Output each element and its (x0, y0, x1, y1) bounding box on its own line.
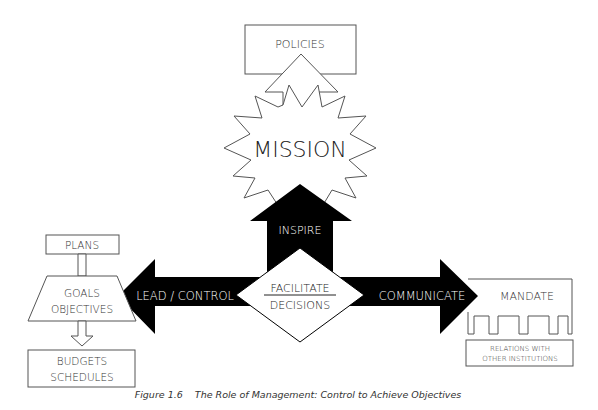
figure-caption: Figure 1.6 The Role of Management: Contr… (135, 389, 462, 400)
budgets-label: BUDGETS (57, 355, 108, 367)
decisions-label: DECISIONS (270, 299, 330, 312)
plans-to-goals-arrow (78, 254, 86, 276)
relations-label-1: RELATIONS WITH (490, 345, 550, 353)
mandate-label: MANDATE (500, 290, 554, 303)
communicate-label: COMMUNICATE (379, 289, 466, 303)
goals-label: GOALS (64, 287, 100, 299)
goals-to-budgets-arrow (71, 321, 93, 346)
relations-label-2: OTHER INSTITUTIONS (482, 355, 558, 363)
objectives-label: OBJECTIVES (51, 303, 113, 315)
facilitate-label: FACILITATE (270, 282, 329, 295)
management-diagram: POLICIES MISSION INSPIRE LEAD / CONTROL … (0, 0, 598, 410)
lead-control-label: LEAD / CONTROL (136, 289, 234, 303)
plans-label: PLANS (65, 239, 99, 251)
mission-label: MISSION (253, 137, 347, 162)
mandate-box (468, 279, 572, 334)
schedules-label: SCHEDULES (50, 371, 113, 383)
inspire-label: INSPIRE (279, 224, 322, 237)
policies-label: POLICIES (275, 38, 325, 51)
